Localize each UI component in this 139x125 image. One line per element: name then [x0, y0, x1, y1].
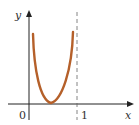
x-tick-1-label: 1: [81, 109, 88, 122]
x-axis-label: x: [125, 109, 132, 122]
y-axis-arrow-icon: [26, 10, 32, 17]
x-axis-arrow-icon: [127, 101, 134, 107]
origin-label: 0: [19, 109, 26, 122]
curve: [33, 32, 73, 103]
y-axis-label: y: [14, 9, 22, 22]
graph: y 0 1 x: [0, 0, 139, 125]
